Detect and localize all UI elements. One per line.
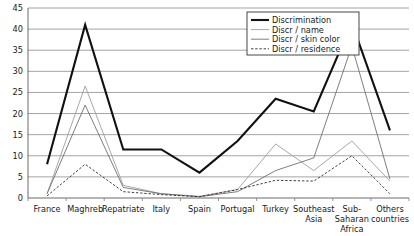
y-axis-tick-label: 5 (18, 172, 23, 182)
legend-label-4: Discr / residence (272, 44, 340, 54)
chart-legend: DiscriminationDiscr / nameDiscr / skin c… (247, 12, 359, 55)
x-axis-tick-label: Asia (305, 214, 322, 224)
x-axis-tick-label: Saharan (335, 214, 369, 224)
y-axis-labels-group: 051015202530354045 (13, 3, 23, 203)
x-axis-labels-group: FranceMaghrebRepatriateItalySpainPortuga… (33, 204, 409, 234)
y-axis-tick-label: 0 (18, 193, 23, 203)
x-axis-tick-label: Spain (188, 204, 211, 214)
x-axis-tick-label: countries (371, 214, 409, 224)
x-axis-tick-label: Turkey (261, 204, 289, 214)
x-axis-tick-label: Sub- (343, 204, 362, 214)
x-axis-tick-label: Repatriate (102, 204, 145, 214)
y-axis-tick-label: 40 (13, 24, 23, 34)
legend-label-2: Discr / name (272, 25, 324, 35)
y-axis-tick-label: 15 (13, 130, 23, 140)
y-axis-tick-label: 45 (13, 3, 23, 13)
y-axis-tick-label: 25 (13, 87, 23, 97)
y-axis-tick-label: 10 (13, 151, 23, 161)
x-axis-tick-label: Maghreb (67, 204, 103, 214)
legend-label-1: Discrimination (272, 15, 331, 25)
series-line-discr-name (47, 86, 390, 196)
x-axis-tick-label: Others (376, 204, 404, 214)
legend-label-3: Discr / skin color (272, 34, 341, 44)
x-axis-tick-label: Southeast (293, 204, 335, 214)
chart-canvas: 051015202530354045 FranceMaghrebRepatria… (0, 0, 414, 236)
y-axis-tick-label: 20 (13, 109, 23, 119)
x-axis-tick-label: France (33, 204, 60, 214)
x-axis-tick-label: Portugal (221, 204, 255, 214)
x-axis-tick-label: Italy (152, 204, 170, 214)
y-axis-tick-label: 30 (13, 66, 23, 76)
y-axis-tick-label: 35 (13, 45, 23, 55)
series-line-discr-residence (47, 156, 390, 197)
x-axis-tick-label: Africa (340, 224, 363, 234)
line-chart-discrimination: 051015202530354045 FranceMaghrebRepatria… (0, 0, 414, 236)
